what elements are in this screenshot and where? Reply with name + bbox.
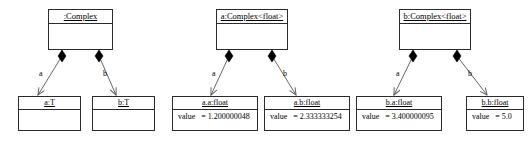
role-label-generic-b: b (103, 70, 107, 78)
slot-equals: = (379, 112, 392, 121)
object-box-header: b.b:float (467, 97, 523, 110)
object-box-slots (217, 24, 287, 50)
composition-diamond (58, 50, 66, 62)
object-name: a:Complex<float> (221, 11, 283, 21)
object-box-slots (93, 110, 154, 130)
slot-value: value=3.400000095 (362, 113, 436, 121)
object-box-a-b-float[interactable]: a.b:float value=2.333333254 (264, 96, 350, 131)
object-box-slots (400, 24, 470, 50)
object-box-complex-b[interactable]: b:Complex<float> (399, 9, 471, 50)
object-box-header: a.a:float (173, 97, 257, 110)
object-box-header: a:T (19, 97, 80, 110)
slot-value-text: 3.400000095 (392, 112, 434, 121)
slot-value-text: 2.333333254 (300, 112, 342, 121)
object-box-slots: value=5.0 (467, 110, 523, 130)
role-label-b-b: b (468, 70, 472, 78)
object-name: :Complex (64, 11, 98, 21)
object-box-slots: value=2.333333254 (265, 110, 349, 130)
slot-equals: = (489, 112, 502, 121)
composition-diamond (95, 50, 103, 62)
composition-diamond (225, 50, 233, 62)
slot-value: value=1.200000048 (178, 113, 252, 121)
slot-value-text: 5.0 (502, 112, 512, 121)
composition-diamond (453, 50, 461, 62)
slot-name: value (472, 112, 489, 121)
slot-name: value (270, 112, 287, 121)
object-box-b-a-float[interactable]: b.a:float value=3.400000095 (356, 96, 442, 131)
slot-name: value (178, 112, 195, 121)
uml-object-diagram: a b a b a b :Complex a:T b:T a:Complex<f… (0, 0, 530, 143)
object-box-b-t[interactable]: b:T (92, 96, 155, 131)
object-box-slots (19, 110, 80, 130)
object-box-header: b.a:float (357, 97, 441, 110)
object-box-a-t[interactable]: a:T (18, 96, 81, 131)
composition-diamond (268, 50, 276, 62)
object-name: a.a:float (202, 98, 228, 107)
object-box-slots: value=3.400000095 (357, 110, 441, 130)
slot-value: value=2.333333254 (270, 113, 344, 121)
role-label-b-a: a (396, 70, 400, 78)
role-label-a-a: a (212, 70, 216, 78)
object-box-b-b-float[interactable]: b.b:float value=5.0 (466, 96, 524, 131)
slot-equals: = (287, 112, 300, 121)
object-name: a:T (44, 98, 55, 107)
object-name: b.a:float (386, 98, 412, 107)
object-box-header: a.b:float (265, 97, 349, 110)
object-box-header: :Complex (49, 10, 112, 24)
object-box-slots (49, 24, 112, 50)
object-name: b:Complex<float> (404, 11, 467, 21)
slot-equals: = (195, 112, 208, 121)
slot-value-text: 1.200000048 (208, 112, 250, 121)
object-box-header: b:T (93, 97, 154, 110)
slot-value: value=5.0 (472, 113, 518, 121)
role-label-a-b: b (283, 70, 287, 78)
object-name: a.b:float (294, 98, 320, 107)
object-box-complex-a[interactable]: a:Complex<float> (216, 9, 288, 50)
object-box-slots: value=1.200000048 (173, 110, 257, 130)
role-label-generic-a: a (39, 70, 43, 78)
link-group-a-b (268, 50, 296, 95)
composition-diamond (409, 50, 417, 62)
object-box-a-a-float[interactable]: a.a:float value=1.200000048 (172, 96, 258, 131)
object-box-header: b:Complex<float> (400, 10, 470, 24)
slot-name: value (362, 112, 379, 121)
object-box-header: a:Complex<float> (217, 10, 287, 24)
object-name: b.b:float (482, 98, 509, 107)
object-name: b:T (118, 98, 129, 107)
object-box-complex-generic[interactable]: :Complex (48, 9, 113, 50)
